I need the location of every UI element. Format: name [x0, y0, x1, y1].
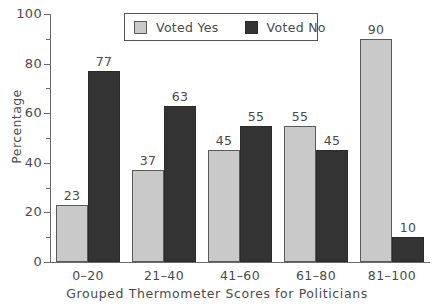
bar-no-4 — [392, 237, 424, 262]
legend-label-voted-no: Voted No — [267, 20, 326, 35]
bar-no-0 — [88, 71, 120, 262]
legend-swatch-icon-voted-yes — [134, 21, 147, 34]
bar-yes-3 — [284, 126, 316, 262]
x-axis-tick-label: 21–40 — [126, 268, 202, 283]
legend-swatch-icon-voted-no — [245, 21, 258, 34]
bar-value-label-no-0: 77 — [88, 54, 120, 69]
bar-value-label-yes-0: 23 — [56, 188, 88, 203]
bar-value-label-yes-4: 90 — [360, 22, 392, 37]
y-axis-tick-major — [44, 262, 50, 263]
y-axis-tick-label: 80 — [25, 56, 42, 71]
bar-chart: 020406080100 Percentage 2377376345555545… — [0, 0, 434, 308]
bar-value-label-no-4: 10 — [392, 220, 424, 235]
x-axis-title: Grouped Thermometer Scores for Politicia… — [0, 286, 434, 301]
bar-no-3 — [316, 150, 348, 262]
y-axis-tick-label: 0 — [33, 254, 42, 269]
bar-yes-2 — [208, 150, 240, 262]
bar-yes-0 — [56, 205, 88, 262]
legend-entry-voted-yes[interactable]: Voted Yes — [134, 14, 219, 40]
legend-label-voted-yes: Voted Yes — [156, 20, 219, 35]
plot-area: 23773763455555459010 — [50, 14, 430, 262]
y-axis-title: Percentage — [9, 67, 24, 187]
x-axis-line — [50, 262, 430, 263]
bar-yes-1 — [132, 170, 164, 262]
x-axis-tick-label: 41–60 — [202, 268, 278, 283]
legend: Voted Yes Voted No — [124, 13, 318, 41]
x-axis-tick-label: 81–100 — [354, 268, 430, 283]
bar-no-1 — [164, 106, 196, 262]
bar-value-label-no-2: 55 — [240, 109, 272, 124]
x-axis-tick-label: 0–20 — [50, 268, 126, 283]
bar-value-label-yes-2: 45 — [208, 133, 240, 148]
bar-no-2 — [240, 126, 272, 262]
bar-value-label-no-3: 45 — [316, 133, 348, 148]
y-axis-tick-label: 20 — [25, 204, 42, 219]
bar-value-label-no-1: 63 — [164, 89, 196, 104]
x-axis-tick-label: 61–80 — [278, 268, 354, 283]
y-axis-tick-label: 60 — [25, 105, 42, 120]
bar-yes-4 — [360, 39, 392, 262]
y-axis-tick-label: 100 — [16, 6, 42, 21]
y-axis-tick-label: 40 — [25, 155, 42, 170]
bar-value-label-yes-1: 37 — [132, 153, 164, 168]
bar-value-label-yes-3: 55 — [284, 109, 316, 124]
legend-entry-voted-no[interactable]: Voted No — [245, 14, 326, 40]
